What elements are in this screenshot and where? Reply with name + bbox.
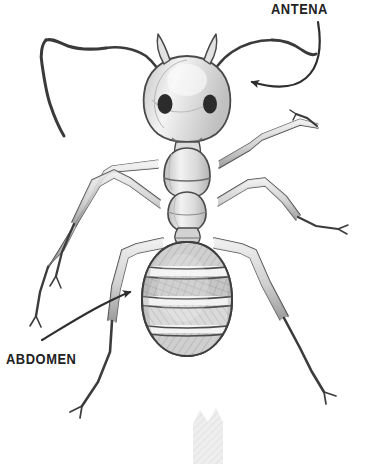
hind-right-leg bbox=[214, 238, 336, 404]
right-eye bbox=[203, 95, 217, 114]
front-right-leg bbox=[219, 110, 318, 168]
middle-right-leg bbox=[218, 178, 348, 234]
left-eye bbox=[158, 94, 173, 114]
label-antena: ANTENA bbox=[271, 1, 328, 17]
abdomen bbox=[138, 242, 238, 360]
bottom-partial-shape bbox=[193, 408, 223, 464]
ant-illustration bbox=[0, 0, 375, 464]
label-abdomen: ABDOMEN bbox=[6, 351, 76, 367]
head bbox=[144, 34, 231, 143]
middle-left-leg bbox=[50, 170, 160, 288]
right-mandible bbox=[204, 34, 217, 64]
thorax bbox=[164, 142, 210, 232]
ant-anatomy-diagram: ANTENA ABDOMEN bbox=[0, 0, 375, 464]
left-mandible bbox=[157, 34, 170, 64]
